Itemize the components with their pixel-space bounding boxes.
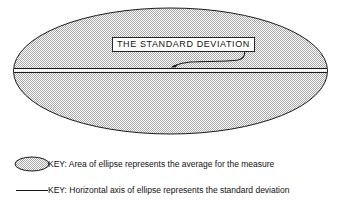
legend-text-area: KEY: Area of ellipse represents the aver… [48,160,274,169]
statistical-ellipse-figure: THE STANDARD DEVIATION KEY: Area o [0,0,342,202]
legend-text-axis: KEY: Horizontal axis of ellipse represen… [48,186,289,195]
legend: KEY: Area of ellipse represents the aver… [0,148,342,202]
legend-row-area: KEY: Area of ellipse represents the aver… [0,152,342,176]
callout-label: THE STANDARD DEVIATION [117,40,250,49]
callout-box: THE STANDARD DEVIATION [112,37,255,52]
diagram-area: THE STANDARD DEVIATION [0,0,342,145]
ellipse-diagram-svg [0,0,342,145]
horizontal-line-swatch-icon [14,181,50,199]
filled-ellipse-swatch-icon [14,155,50,173]
legend-row-axis: KEY: Horizontal axis of ellipse represen… [0,178,342,202]
